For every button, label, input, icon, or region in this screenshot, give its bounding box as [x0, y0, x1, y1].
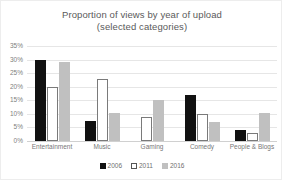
y-axis: 35%30%25%20%15%10%5%0%	[1, 46, 25, 141]
legend-label: 2011	[139, 162, 153, 169]
legend-item-2006[interactable]: 2006	[100, 162, 122, 169]
bar-2006-entertainment[interactable]	[35, 60, 46, 141]
bar-group	[77, 46, 127, 141]
bar-groups	[27, 46, 277, 141]
bar-2006-people-blogs[interactable]	[235, 130, 246, 141]
legend-item-2016[interactable]: 2016	[162, 162, 184, 169]
bar-2016-music[interactable]	[109, 113, 120, 142]
legend-swatch-icon-2011	[131, 163, 137, 169]
bar-2011-people-blogs[interactable]	[247, 133, 258, 141]
x-axis-tick-label: Entertainment	[27, 143, 77, 151]
bar-2011-gaming[interactable]	[141, 117, 152, 141]
bar-2016-comedy[interactable]	[209, 122, 220, 141]
bar-2011-entertainment[interactable]	[47, 87, 58, 141]
bar-2006-comedy[interactable]	[185, 95, 196, 141]
chart-title: Proportion of views by year of upload (s…	[1, 9, 282, 33]
bar-group	[227, 46, 277, 141]
y-axis-tick-label: 20%	[10, 83, 23, 90]
y-axis-tick-label: 15%	[10, 97, 23, 104]
bar-2006-music[interactable]	[85, 121, 96, 141]
bar-2016-people-blogs[interactable]	[259, 113, 270, 142]
plot-area	[27, 46, 277, 141]
y-axis-tick-label: 5%	[14, 124, 23, 131]
chart-title-line-1: Proportion of views by year of upload	[62, 9, 222, 20]
bar-2016-gaming[interactable]	[153, 100, 164, 141]
chart-title-line-2: (selected categories)	[1, 21, 282, 33]
y-axis-tick-label: 0%	[14, 138, 23, 145]
legend-swatch-icon-2016	[162, 163, 168, 169]
legend-label: 2006	[108, 162, 122, 169]
x-axis-tick-label: People & Blogs	[227, 143, 277, 151]
chart-legend: 200620112016	[1, 162, 282, 169]
x-axis-tick-label: Comedy	[177, 143, 227, 151]
legend-swatch-icon-2006	[100, 163, 106, 169]
legend-label: 2016	[170, 162, 184, 169]
y-axis-tick-label: 30%	[10, 56, 23, 63]
gridline	[27, 141, 277, 142]
y-axis-tick-label: 35%	[10, 43, 23, 50]
x-axis-tick-label: Music	[77, 143, 127, 151]
bar-2011-comedy[interactable]	[197, 114, 208, 141]
y-axis-tick-label: 10%	[10, 111, 23, 118]
chart-container: Proportion of views by year of upload (s…	[0, 0, 282, 180]
bar-group	[177, 46, 227, 141]
bar-2011-music[interactable]	[97, 79, 108, 141]
y-axis-tick-label: 25%	[10, 70, 23, 77]
legend-item-2011[interactable]: 2011	[131, 162, 153, 169]
x-axis-tick-label: Gaming	[127, 143, 177, 151]
bar-group	[27, 46, 77, 141]
x-axis: EntertainmentMusicGamingComedyPeople & B…	[27, 143, 277, 151]
bar-group	[127, 46, 177, 141]
bar-2016-entertainment[interactable]	[59, 62, 70, 141]
